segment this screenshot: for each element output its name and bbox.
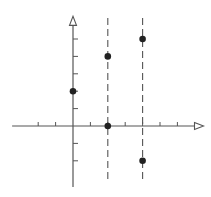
data-point [139,36,146,43]
x-axis-arrow-icon [195,123,204,130]
vertical-dashed-lines [108,18,143,182]
data-point [70,88,77,95]
data-point [105,123,112,130]
coordinate-plane-diagram [0,0,211,197]
data-point [139,158,146,165]
plot-canvas [0,0,211,197]
y-axis-arrow-icon [70,16,77,25]
data-point [105,53,112,60]
